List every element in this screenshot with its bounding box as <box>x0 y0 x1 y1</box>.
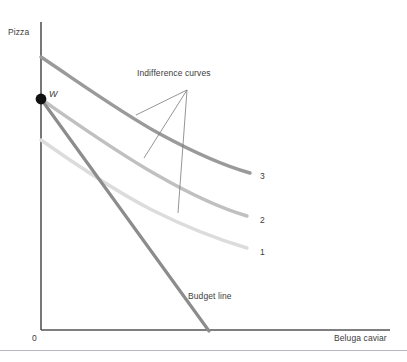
y-axis-label: Pizza <box>8 28 29 37</box>
curve-label-2: 2 <box>260 216 265 225</box>
budget-line-label: Budget line <box>188 292 232 301</box>
endowment-point-label: W <box>49 90 58 99</box>
chart-canvas <box>0 0 407 362</box>
endowment-point-marker <box>36 94 47 105</box>
indifference-curve-1 <box>41 140 247 248</box>
chart-figure: Pizza Beluga caviar 0 W Indifference cur… <box>0 0 407 362</box>
x-axis-label: Beluga caviar <box>334 334 387 343</box>
curve-label-3: 3 <box>260 172 265 181</box>
curve-label-1: 1 <box>260 248 265 257</box>
indifference-curves-callout-label: Indifference curves <box>137 69 211 78</box>
origin-label: 0 <box>32 334 37 343</box>
bottom-divider <box>0 350 407 351</box>
leader-line-to-curve-1 <box>178 90 187 213</box>
